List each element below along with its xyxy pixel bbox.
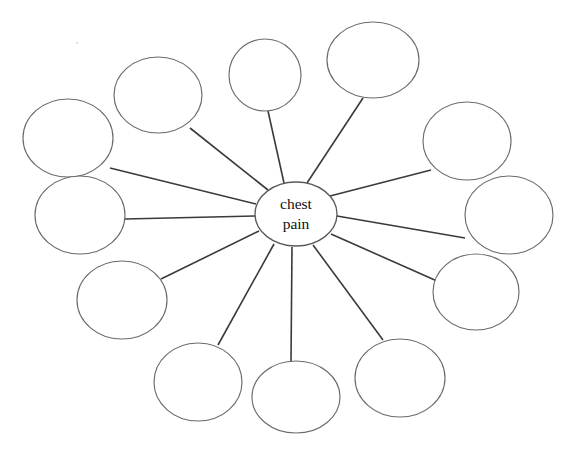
spider-diagram: chest pain xyxy=(0,0,573,456)
satellite-node-shape-5[interactable] xyxy=(423,102,511,180)
scan-speck xyxy=(76,42,78,44)
satellite-node-shape-12[interactable] xyxy=(35,176,125,254)
satellite-node-9[interactable] xyxy=(252,361,340,433)
satellite-node-shape-8[interactable] xyxy=(355,339,445,417)
satellite-node-7[interactable] xyxy=(433,254,519,330)
satellite-node-8[interactable] xyxy=(355,339,445,417)
satellite-node-2[interactable] xyxy=(114,57,202,133)
satellite-node-shape-11[interactable] xyxy=(77,261,167,339)
satellite-node-12[interactable] xyxy=(35,176,125,254)
center-label-line1: chest xyxy=(280,195,313,212)
satellite-node-4[interactable] xyxy=(327,22,419,98)
satellite-node-shape-9[interactable] xyxy=(252,361,340,433)
satellite-node-shape-3[interactable] xyxy=(229,39,301,111)
satellite-node-10[interactable] xyxy=(154,343,242,421)
center-label-line2: pain xyxy=(283,215,310,232)
satellite-node-11[interactable] xyxy=(77,261,167,339)
satellite-node-shape-2[interactable] xyxy=(114,57,202,133)
satellite-node-6[interactable] xyxy=(465,176,553,254)
satellite-node-shape-6[interactable] xyxy=(465,176,553,254)
satellite-node-shape-4[interactable] xyxy=(327,22,419,98)
satellite-node-1[interactable] xyxy=(23,99,113,177)
satellite-node-5[interactable] xyxy=(423,102,511,180)
center-node[interactable]: chest pain xyxy=(255,182,337,246)
satellite-node-shape-7[interactable] xyxy=(433,254,519,330)
satellite-node-3[interactable] xyxy=(229,39,301,111)
concept-map-canvas: chest pain xyxy=(0,0,573,456)
spoke-line-9 xyxy=(291,247,292,361)
satellite-node-shape-10[interactable] xyxy=(154,343,242,421)
satellite-node-shape-1[interactable] xyxy=(23,99,113,177)
